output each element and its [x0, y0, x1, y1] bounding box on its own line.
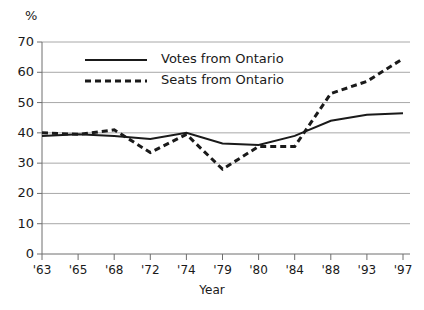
x-tick-label: '72 [130, 263, 170, 277]
x-tick-label: '93 [347, 263, 387, 277]
chart-container: % 010203040506070 '63'65'68'72'74'79'80'… [0, 0, 424, 310]
x-tick-label: '74 [166, 263, 206, 277]
y-tick-label: 10 [4, 216, 34, 231]
x-axis-title: Year [172, 283, 252, 297]
y-tick-label: 70 [4, 34, 34, 49]
x-tick-label: '65 [58, 263, 98, 277]
x-tick-label: '79 [203, 263, 243, 277]
x-tick-label: '68 [94, 263, 134, 277]
x-tick-label: '88 [311, 263, 351, 277]
legend-label-seats: Seats from Ontario [161, 72, 284, 87]
y-tick-label: 30 [4, 155, 34, 170]
x-tick-label: '84 [275, 263, 315, 277]
y-tick-label: 40 [4, 125, 34, 140]
legend-label-votes: Votes from Ontario [161, 51, 284, 66]
x-tick-label: '97 [383, 263, 423, 277]
y-tick-marks-group [37, 42, 42, 254]
y-tick-label: 0 [4, 246, 34, 261]
y-tick-label: 50 [4, 95, 34, 110]
legend-swatch-group [85, 60, 147, 81]
y-tick-label: 60 [4, 64, 34, 79]
y-tick-label: 20 [4, 185, 34, 200]
x-tick-label: '80 [239, 263, 279, 277]
x-tick-label: '63 [22, 263, 62, 277]
series-line-votes [42, 113, 403, 145]
x-tick-marks-group [42, 254, 403, 260]
